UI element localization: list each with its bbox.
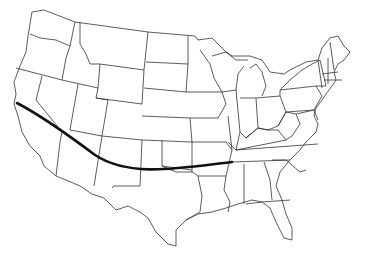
us-map-canvas (0, 0, 378, 260)
us-outline (14, 10, 350, 246)
us-map (0, 0, 378, 260)
